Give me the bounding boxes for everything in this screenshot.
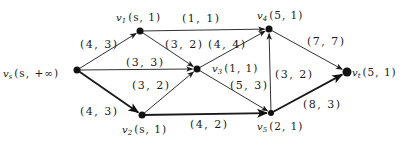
edge-label-v1-v4: (1, 1) [182,12,221,25]
edge-label-vs-v1: (4, 3) [80,38,119,51]
edge-label-v2-v3: (3, 2) [132,79,171,92]
edge-label-v4-vt: (7, 7) [307,35,346,48]
edge-label-v2-v5: (4, 2) [190,118,229,131]
edge-v1-v4 [140,29,265,31]
node-label-v5: v5(2, 1) [257,120,303,134]
edge-vs-v3 [77,69,193,70]
node-label-v1: v1(s, 1) [116,11,161,25]
network-flow-diagram: (4, 3)(3, 3)(4, 3)(1, 1)(3, 2)(3, 2)(4, … [0,0,416,145]
edge-v2-v5 [142,113,267,115]
edge-label-v1-v3: (3, 2) [165,38,204,51]
edge-label-v3-v5: (5, 3) [230,79,269,92]
node-label-vs: vs(s, +∞) [3,67,59,81]
node-v3 [194,66,201,73]
edge-label-v3-v4: (4, 4) [208,38,247,51]
node-vs [74,67,81,74]
node-label-v2: v2(s, 1) [122,123,167,137]
node-v5 [268,110,274,116]
node-v2 [139,112,146,119]
edge-label-vs-v2: (4, 3) [80,105,119,118]
edge-v5-v4 [269,34,271,114]
node-v1 [137,28,144,35]
edge-label-v5-v4: (3, 2) [275,68,314,81]
node-vt [343,68,352,77]
edge-label-vs-v3: (3, 3) [126,56,165,69]
node-label-v4: v4(5, 1) [257,9,303,23]
node-v4 [266,26,273,33]
node-label-vt: vt(5, 1) [352,66,397,80]
node-label-v3: v3(1, 1) [212,62,258,76]
edge-label-v5-vt: (8, 3) [303,98,342,111]
